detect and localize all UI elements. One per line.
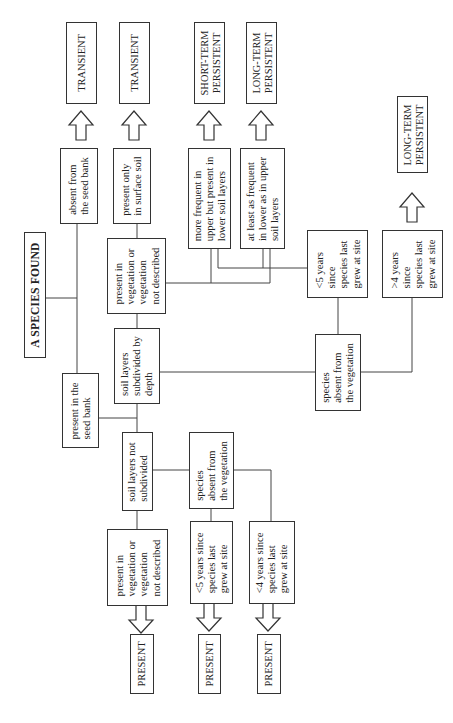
outcome-present-1: PRESENT — [130, 634, 154, 694]
arrow-up-icon — [249, 111, 273, 140]
title-text: A SPECIES FOUND — [29, 242, 41, 347]
node-soil-subdivided: soil layers subdivided by depth — [114, 328, 160, 404]
node-more-frequent-upper: more frequent in upper but present in lo… — [188, 148, 231, 249]
outcome-short-term-persistent: SHORT-TERM PERSISTENT — [194, 22, 225, 104]
arrow-up-icon — [69, 111, 93, 140]
node-present-vegetation-not-subdivided: present in vegetation or vegetation not … — [107, 529, 168, 606]
node-absent-seed-bank: absent from the seed bank — [60, 148, 98, 224]
node-present-surface-soil: present only in surface soil — [113, 148, 151, 224]
node-gt4-years-subdivided: >4 years since species last grew at site — [382, 230, 443, 298]
node-lt4-years-not-subdivided: <4 years since species last grew at site — [249, 521, 295, 604]
node-soil-not-subdivided: soil layers not subdivided — [122, 432, 153, 511]
outcome-long-term-persistent-2: LONG-TERM PERSISTENT — [397, 96, 428, 173]
node-present-vegetation-subdivided: present in vegetation or vegetation not … — [107, 238, 166, 314]
outcome-long-term-persistent-1: LONG-TERM PERSISTENT — [246, 22, 277, 104]
arrow-down-icon — [129, 605, 153, 633]
node-lt5-years-not-subdivided: <5 years since species last grew at site — [190, 521, 233, 604]
outcome-transient-2: TRANSIENT — [119, 22, 150, 104]
outcome-present-2: PRESENT — [198, 634, 221, 694]
arrow-down-icon — [197, 603, 221, 631]
arrow-down-icon — [256, 603, 280, 631]
node-species-absent-vegetation-subdivided: species absent from the vegetation — [315, 334, 361, 411]
outcome-present-3: PRESENT — [257, 634, 281, 694]
seed-bank-classification-flowchart: A SPECIES FOUND absent from the seed ban… — [0, 0, 453, 723]
node-at-least-as-frequent-lower: at least as frequent in lower as in uppe… — [240, 148, 285, 249]
arrow-up-icon — [400, 193, 424, 222]
node-species-absent-vegetation-not-subdivided: species absent from the vegetation — [189, 432, 234, 509]
species-found-title: A SPECIES FOUND — [24, 232, 46, 358]
node-present-seed-bank: present in the seed bank — [62, 373, 99, 448]
outcome-transient-1: TRANSIENT — [66, 22, 97, 104]
arrow-up-icon — [197, 111, 221, 140]
connector-lines — [0, 0, 453, 723]
arrow-up-icon — [122, 111, 146, 140]
node-lt5-years-subdivided: <5 years since species last grew at site — [307, 230, 368, 298]
